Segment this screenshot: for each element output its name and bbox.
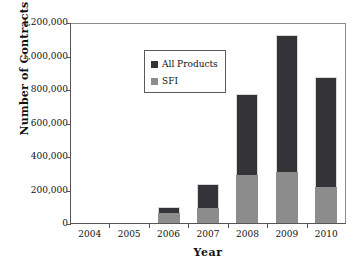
bar-stack xyxy=(158,207,180,223)
legend-entry: All Products xyxy=(151,56,225,72)
bar-segment-sfi xyxy=(315,187,337,223)
bar-stack xyxy=(197,184,219,223)
y-axis-tick-label: 200,000 xyxy=(20,186,68,195)
plot-frame-right xyxy=(345,23,346,224)
y-axis-tick-label: 600,000 xyxy=(20,119,68,128)
bar-segment-sfi xyxy=(158,213,180,223)
bar-segment-all-products xyxy=(315,77,337,187)
y-axis-tick-mark xyxy=(66,191,71,192)
legend-label: All Products xyxy=(162,59,218,69)
bar-chart-figure: Number of Contracts 0200,000400,000600,0… xyxy=(0,0,356,272)
x-axis-tick-mark xyxy=(267,223,268,228)
legend-label: SFI xyxy=(162,76,178,86)
y-axis-tick-label: 400,000 xyxy=(20,152,68,161)
plot-frame-top xyxy=(70,23,346,24)
gray-square-icon xyxy=(151,78,158,85)
y-axis-tick-mark xyxy=(66,90,71,91)
bar-segment-all-products xyxy=(276,35,298,172)
bar-stack xyxy=(276,35,298,223)
y-axis-tick-label: 0 xyxy=(20,219,68,228)
bar-segment-all-products xyxy=(197,184,219,208)
y-axis-tick-label: 800,000 xyxy=(20,85,68,94)
x-axis-tick-mark xyxy=(149,223,150,228)
legend-entry: SFI xyxy=(151,73,225,89)
y-axis-tick-label: 1,200,000 xyxy=(20,18,68,27)
x-axis-tick-label: 2010 xyxy=(303,229,349,239)
y-axis-tick-mark xyxy=(66,157,71,158)
x-axis-title: Year xyxy=(70,246,346,259)
bar-segment-all-products xyxy=(236,94,258,175)
bar-segment-sfi xyxy=(197,208,219,223)
bar-stack xyxy=(315,77,337,223)
x-axis-tick-labels: 2004200520062007200820092010 xyxy=(70,229,346,243)
x-axis-tick-mark xyxy=(307,223,308,228)
y-axis-tick-label: 1,000,000 xyxy=(20,52,68,61)
y-axis-tick-mark xyxy=(66,57,71,58)
y-axis-tick-mark xyxy=(66,124,71,125)
y-axis-tick-mark xyxy=(66,23,71,24)
plot-area: All ProductsSFI xyxy=(70,23,346,224)
bar-segment-sfi xyxy=(236,175,258,223)
x-axis-line xyxy=(70,223,346,224)
x-axis-tick-mark xyxy=(188,223,189,228)
bar-segment-sfi xyxy=(276,172,298,223)
dark-square-icon xyxy=(151,61,158,68)
x-axis-tick-mark xyxy=(109,223,110,228)
y-axis-tick-mark xyxy=(66,224,71,225)
y-axis-tick-labels: 0200,000400,000600,000800,0001,000,0001,… xyxy=(12,0,68,272)
bar-stack xyxy=(236,94,258,223)
x-axis-tick-mark xyxy=(228,223,229,228)
chart-legend: All ProductsSFI xyxy=(144,50,226,93)
